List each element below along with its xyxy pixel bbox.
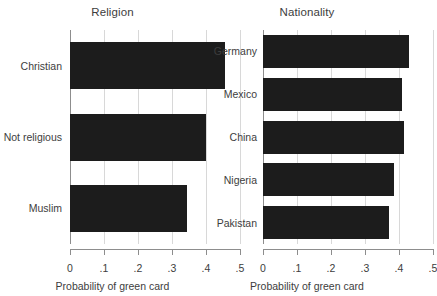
x-axis-tick-label: 0	[260, 262, 266, 274]
x-axis-title-nationality: Probability of green card	[201, 280, 403, 292]
x-axis-tick	[331, 250, 332, 255]
x-axis-tick-label: .5	[429, 262, 437, 274]
x-axis-tick	[399, 250, 400, 255]
category-label: Pakistan	[217, 217, 257, 229]
x-axis-tick-label: .4	[395, 262, 404, 274]
x-axis-tick-label: .3	[168, 262, 177, 274]
plot-area-nationality: 0.1.2.3.4.5	[263, 30, 433, 244]
panel-title-nationality: Nationality	[201, 6, 403, 18]
category-label: Germany	[214, 45, 257, 57]
category-label: Not religious	[4, 131, 62, 143]
x-axis-tick	[433, 250, 434, 255]
category-label: Christian	[21, 60, 62, 72]
x-axis-tick-label: .2	[327, 262, 336, 274]
bar	[263, 121, 404, 154]
category-label: Nigeria	[224, 174, 257, 186]
x-axis-title-religion: Probability of green card	[0, 280, 201, 292]
x-axis-tick	[172, 250, 173, 255]
panel-title-religion: Religion	[0, 6, 201, 18]
panel-nationality: Nationality 0.1.2.3.4.5 Probability of g…	[201, 0, 403, 296]
bar	[263, 35, 409, 68]
bar	[263, 206, 389, 239]
x-axis-tick-label: .2	[134, 262, 143, 274]
bar	[263, 163, 394, 196]
category-label: Muslim	[29, 202, 62, 214]
x-axis-tick	[297, 250, 298, 255]
bar	[70, 185, 187, 232]
x-axis-tick	[104, 250, 105, 255]
x-axis-line	[263, 249, 434, 250]
x-axis-tick-label: .3	[361, 262, 370, 274]
x-axis-tick-label: .1	[100, 262, 109, 274]
category-label: China	[230, 131, 257, 143]
x-axis-tick	[365, 250, 366, 255]
x-axis-tick-label: 0	[67, 262, 73, 274]
bar	[70, 114, 206, 161]
x-axis-tick-label: .1	[293, 262, 302, 274]
bar	[263, 78, 402, 111]
x-axis-tick	[70, 250, 71, 255]
category-label: Mexico	[224, 88, 257, 100]
panel-religion: Religion 0.1.2.3.4.5 Probability of gree…	[0, 0, 201, 296]
x-axis-tick	[138, 250, 139, 255]
x-axis-tick	[263, 250, 264, 255]
gridline	[433, 30, 434, 244]
